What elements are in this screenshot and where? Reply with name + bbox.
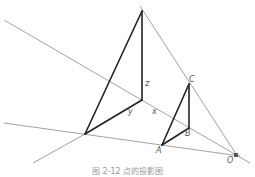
label-c: C <box>189 76 195 84</box>
label-y: y <box>128 108 133 116</box>
label-a: A <box>156 147 161 155</box>
x-axis-line <box>4 20 250 163</box>
ground-line <box>4 123 240 156</box>
diagram-canvas <box>0 0 255 177</box>
y-axis-extension-line <box>33 134 85 163</box>
label-z: z <box>145 80 149 88</box>
point-o-marker <box>234 153 238 157</box>
label-b: B <box>185 130 191 138</box>
projection-diagram: z y x C B A O 图 2-12 点的投影图 <box>0 0 255 177</box>
label-x: x <box>152 108 157 116</box>
label-o: O <box>227 157 233 165</box>
figure-caption: 图 2-12 点的投影图 <box>0 168 255 176</box>
